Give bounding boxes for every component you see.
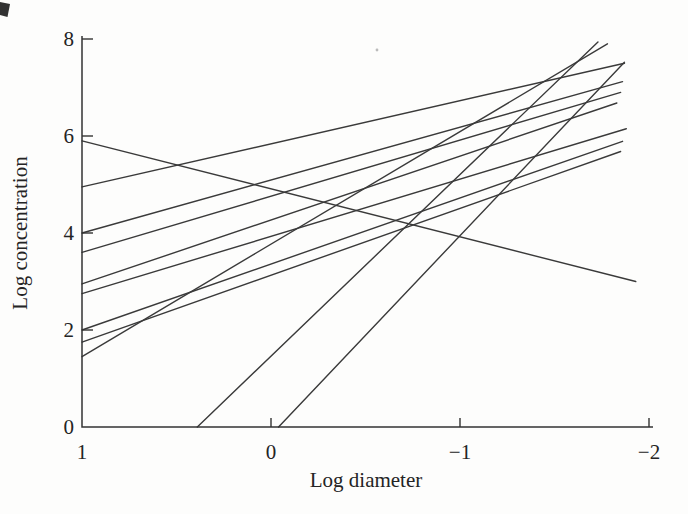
chart-canvas: 0246810−1−2 Log diameter Log concentrati…: [0, 0, 688, 514]
line-f: [82, 129, 626, 294]
y-tick-label-8: 8: [64, 27, 75, 51]
line-a-descending: [82, 141, 636, 282]
tick-labels: 0246810−1−2: [64, 27, 661, 464]
y-tick-label-6: 6: [64, 124, 75, 148]
line-c: [82, 82, 623, 233]
line-h: [82, 152, 621, 343]
page-edge-corner-mark: [0, 2, 10, 17]
line-d: [82, 92, 621, 252]
axes: [82, 36, 653, 427]
x-tick-label-1: 1: [77, 440, 88, 464]
y-tick-label-4: 4: [64, 221, 75, 245]
series-lines: [82, 42, 636, 427]
x-axis-title: Log diameter: [310, 468, 423, 492]
x-tick-label-−1: −1: [449, 440, 471, 464]
x-tick-label-−2: −2: [638, 440, 660, 464]
line-j-steep: [197, 42, 598, 427]
line-k-steep: [279, 62, 625, 427]
dust-speck: [376, 49, 379, 52]
line-i-steep: [82, 44, 607, 357]
y-tick-label-2: 2: [64, 318, 75, 342]
y-axis-title: Log concentration: [8, 156, 32, 310]
y-tick-label-0: 0: [64, 415, 75, 439]
x-tick-label-0: 0: [266, 440, 277, 464]
line-g: [82, 141, 623, 330]
axis-spine: [82, 36, 653, 427]
figure-log-concentration-vs-log-diameter: 0246810−1−2 Log diameter Log concentrati…: [0, 0, 688, 514]
